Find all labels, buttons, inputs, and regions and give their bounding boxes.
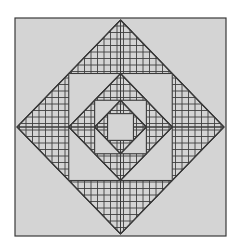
figure-root: Nested hatched diamond-in-square pattern — [0, 0, 239, 252]
draw-layer — [15, 18, 226, 236]
square-ring-5-center — [108, 114, 134, 141]
nested-diamond-figure: Nested hatched diamond-in-square pattern — [0, 0, 239, 252]
